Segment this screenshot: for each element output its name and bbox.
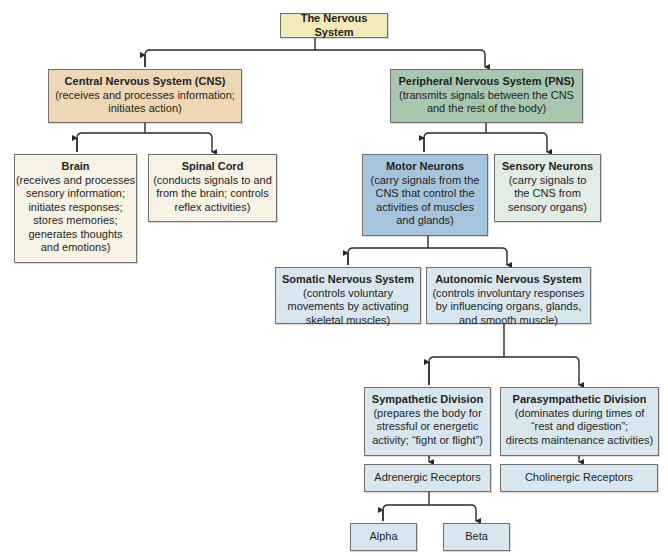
node-label: Beta [444, 530, 509, 544]
node-title: Peripheral Nervous System (PNS) [391, 75, 582, 89]
node-description: (prepares the body for stressful or ener… [365, 407, 490, 448]
node-title: Spinal Cord [149, 160, 276, 174]
node-sympathetic-division: Sympathetic Division (prepares the body … [364, 387, 491, 456]
node-description: (receives and processes sensory informat… [15, 174, 136, 255]
node-title: Central Nervous System (CNS) [49, 75, 241, 89]
node-cns: Central Nervous System (CNS) (receives a… [48, 69, 242, 123]
node-title: Brain [15, 160, 136, 174]
node-description: (transmits signals between the CNS and t… [391, 89, 582, 116]
node-somatic-nervous-system: Somatic Nervous System (controls volunta… [275, 267, 421, 324]
node-title: Sensory Neurons [495, 160, 600, 174]
node-adrenergic-receptors: Adrenergic Receptors [364, 464, 491, 492]
node-autonomic-nervous-system: Autonomic Nervous System (controls invol… [426, 267, 591, 324]
node-parasympathetic-division: Parasympathetic Division (dominates duri… [500, 387, 659, 456]
node-label: Adrenergic Receptors [365, 471, 490, 485]
node-description: (dominates during times of “rest and dig… [501, 407, 658, 448]
node-title: Parasympathetic Division [501, 393, 658, 407]
node-description: (controls involuntary responses by influ… [427, 287, 590, 328]
node-title: The Nervous System [281, 12, 387, 39]
node-spinal-cord: Spinal Cord (conducts signals to and fro… [148, 154, 277, 222]
node-title: Sympathetic Division [365, 393, 490, 407]
node-motor-neurons: Motor Neurons (carry signals from the CN… [362, 154, 488, 236]
node-pns: Peripheral Nervous System (PNS) (transmi… [390, 69, 583, 123]
node-description: (carry signals to the CNS from sensory o… [495, 174, 600, 215]
node-beta: Beta [443, 523, 510, 551]
node-description: (carry signals from the CNS that control… [363, 174, 487, 228]
node-nervous-system: The Nervous System [280, 13, 388, 38]
node-title: Autonomic Nervous System [427, 273, 590, 287]
node-description: (controls voluntary movements by activat… [276, 287, 420, 328]
node-title: Motor Neurons [363, 160, 487, 174]
node-title: Somatic Nervous System [276, 273, 420, 287]
node-label: Cholinergic Receptors [501, 471, 657, 485]
node-brain: Brain (receives and processes sensory in… [14, 154, 137, 263]
node-label: Alpha [351, 530, 416, 544]
node-sensory-neurons: Sensory Neurons (carry signals to the CN… [494, 154, 601, 222]
node-alpha: Alpha [350, 523, 417, 551]
node-description: (receives and processes information; ini… [49, 89, 241, 116]
node-description: (conducts signals to and from the brain;… [149, 174, 276, 215]
node-cholinergic-receptors: Cholinergic Receptors [500, 464, 658, 492]
